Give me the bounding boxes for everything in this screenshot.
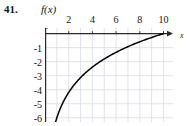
y-tick-label: -3 xyxy=(34,70,42,81)
y-tick-label: -4 xyxy=(34,84,42,95)
y-tick-label: -1 xyxy=(34,42,42,53)
y-tick-label: -2 xyxy=(34,56,42,67)
function-curve xyxy=(55,34,164,122)
x-tick-label: 8 xyxy=(137,14,142,25)
y-tick-label: -5 xyxy=(34,98,42,109)
x-tick-label: 2 xyxy=(66,14,71,25)
x-axis-name-label: x xyxy=(180,31,184,40)
plot-area xyxy=(45,28,173,122)
y-tick-label: -6 xyxy=(34,112,42,123)
x-axis-tick-labels: 246810 xyxy=(0,0,187,30)
figure-container: 41. f(x) -1-2-3-4-5-6 246810 x xyxy=(0,0,187,126)
graph-svg xyxy=(45,28,173,122)
x-axis-arrow-icon xyxy=(167,31,173,37)
axis-lines xyxy=(45,28,173,122)
x-tick-label: 10 xyxy=(159,14,169,25)
x-tick-label: 6 xyxy=(114,14,119,25)
x-tick-label: 4 xyxy=(90,14,95,25)
grid-lines xyxy=(45,28,173,122)
curve-path xyxy=(55,34,164,122)
